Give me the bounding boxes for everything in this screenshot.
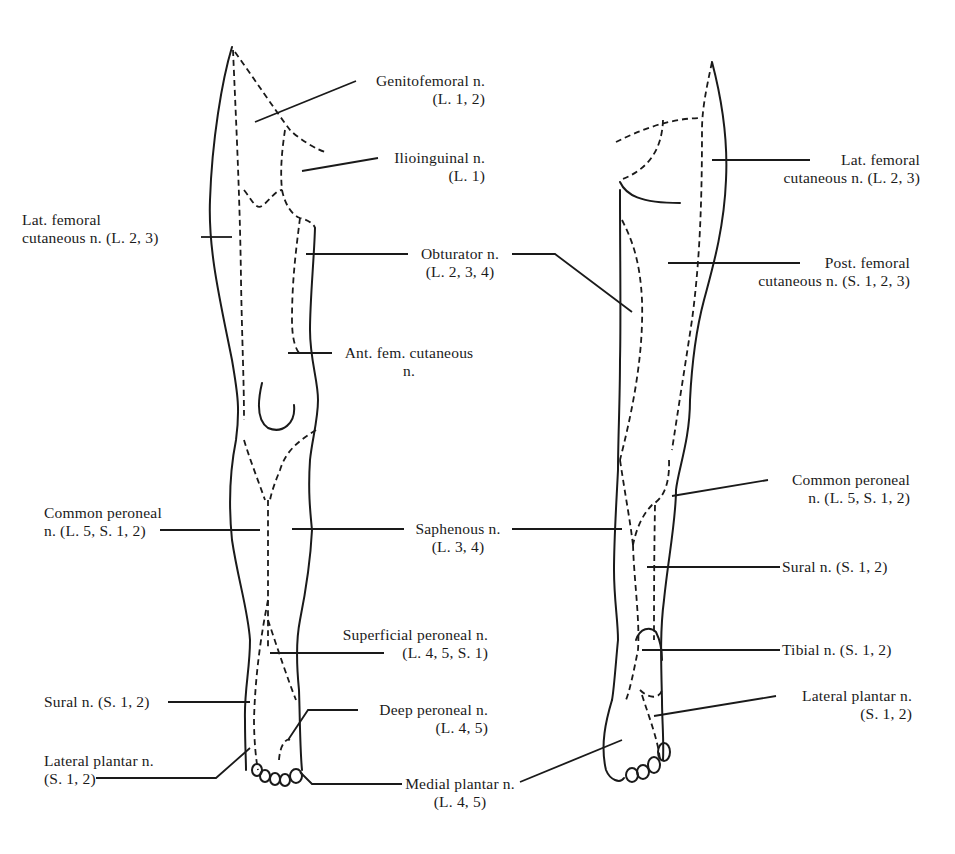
leader-medial-plantar <box>300 772 402 784</box>
posterior-dermatome-boundaries <box>616 62 712 760</box>
label-ant-fem-cutaneous: Ant. fem. cutaneous n. <box>334 344 484 380</box>
label-roots: n. (L. 5, S. 1, 2) <box>44 522 162 540</box>
label-deep-peroneal: Deep peroneal n. (L. 4, 5) <box>358 701 488 737</box>
leader-medial-plantar-post <box>520 740 622 782</box>
label-roots: (L. 4, 5) <box>400 793 520 811</box>
label-name: Post. femoral <box>730 254 910 272</box>
anterior-dermatome-boundaries <box>233 50 325 770</box>
label-name: Deep peroneal n. <box>358 701 488 719</box>
label-sural-posterior: Sural n. (S. 1, 2) <box>782 558 888 576</box>
label-saphenous: Saphenous n. (L. 3, 4) <box>404 520 512 556</box>
label-name: Sural n. (S. 1, 2) <box>44 693 150 711</box>
label-common-peroneal-posterior: Common peroneal n. (L. 5, S. 1, 2) <box>750 471 910 507</box>
leader-lines <box>96 81 810 784</box>
label-lat-femoral-cutaneous-posterior: Lat. femoral cutaneous n. (L. 2, 3) <box>745 151 920 187</box>
anterior-leg-outline <box>210 47 318 786</box>
label-roots: (L. 1) <box>370 167 485 185</box>
label-ilioinguinal: Ilioinguinal n. (L. 1) <box>370 149 485 185</box>
label-roots: (S. 1, 2) <box>760 705 912 723</box>
label-name: Obturator n. <box>406 245 514 263</box>
label-name: Ant. fem. cutaneous <box>334 344 484 362</box>
label-common-peroneal-anterior: Common peroneal n. (L. 5, S. 1, 2) <box>44 504 162 540</box>
label-name: Genitofemoral n. <box>355 72 485 90</box>
label-name: Lateral plantar n. <box>760 687 912 705</box>
label-name: Common peroneal <box>44 504 162 522</box>
leader-lateral-plantar-post <box>654 696 776 716</box>
label-name: Saphenous n. <box>404 520 512 538</box>
label-name: Ilioinguinal n. <box>370 149 485 167</box>
label-roots: (L. 3, 4) <box>404 538 512 556</box>
label-roots: (L. 2, 3, 4) <box>406 263 514 281</box>
label-superficial-peroneal: Superficial peroneal n. (L. 4, 5, S. 1) <box>318 626 488 662</box>
label-medial-plantar: Medial plantar n. (L. 4, 5) <box>400 775 520 811</box>
label-roots: (L. 1, 2) <box>355 90 485 108</box>
label-name: Sural n. (S. 1, 2) <box>782 558 888 576</box>
label-name: Lateral plantar n. <box>44 752 154 770</box>
label-name: Common peroneal <box>750 471 910 489</box>
label-roots: n. (L. 5, S. 1, 2) <box>750 489 910 507</box>
leader-obturator-post <box>512 254 632 312</box>
label-name: Medial plantar n. <box>400 775 520 793</box>
label-roots: (L. 4, 5) <box>358 719 488 737</box>
label-roots: (L. 4, 5, S. 1) <box>318 644 488 662</box>
label-sural-anterior: Sural n. (S. 1, 2) <box>44 693 150 711</box>
posterior-leg-outline <box>604 62 727 782</box>
label-genitofemoral: Genitofemoral n. (L. 1, 2) <box>355 72 485 108</box>
label-name: Lat. femoral <box>745 151 920 169</box>
label-lat-femoral-cutaneous-anterior: Lat. femoral cutaneous n. (L. 2, 3) <box>22 211 159 247</box>
leader-deep-peroneal <box>288 710 358 740</box>
label-lateral-plantar-posterior: Lateral plantar n. (S. 1, 2) <box>760 687 912 723</box>
label-name: Lat. femoral <box>22 211 159 229</box>
label-lateral-plantar-anterior: Lateral plantar n. (S. 1, 2) <box>44 752 154 788</box>
label-post-femoral-cutaneous: Post. femoral cutaneous n. (S. 1, 2, 3) <box>730 254 910 290</box>
anterior-toes <box>252 764 302 786</box>
label-name: Superficial peroneal n. <box>318 626 488 644</box>
label-roots: cutaneous n. (L. 2, 3) <box>745 169 920 187</box>
label-roots: (S. 1, 2) <box>44 770 154 788</box>
label-roots: n. <box>334 362 484 380</box>
label-obturator: Obturator n. (L. 2, 3, 4) <box>406 245 514 281</box>
label-tibial: Tibial n. (S. 1, 2) <box>782 641 892 659</box>
leader-ilioinguinal <box>302 158 378 171</box>
label-roots: cutaneous n. (S. 1, 2, 3) <box>730 272 910 290</box>
label-name: Tibial n. (S. 1, 2) <box>782 641 892 659</box>
label-roots: cutaneous n. (L. 2, 3) <box>22 229 159 247</box>
